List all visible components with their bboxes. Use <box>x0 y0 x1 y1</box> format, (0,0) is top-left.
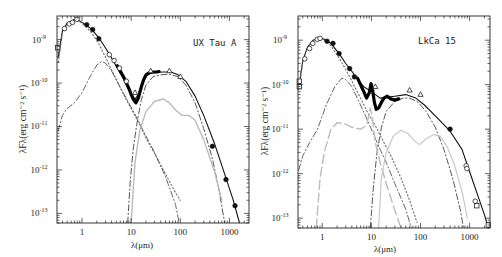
data-point-triangle-open <box>373 84 378 89</box>
panel-title: UX Tau A <box>193 38 237 48</box>
x-tick-label: 1 <box>320 232 325 242</box>
data-markers <box>297 36 490 227</box>
data-point-circle-filled <box>84 22 89 27</box>
y-tick-label: 10-9 <box>32 34 46 45</box>
x-axis-label: λ(μm) <box>131 240 153 250</box>
x-tick-label: 100 <box>174 227 188 237</box>
y-tick-label: 10-13 <box>272 212 289 223</box>
data-point-circle-filled <box>325 39 330 44</box>
data-point-circle-open <box>310 41 315 46</box>
panel-lkca-15: 110100100010-910-1010-1110-1210-13 LkCa … <box>260 16 490 254</box>
data-point-circle-filled <box>337 51 342 56</box>
data-point-circle-open <box>107 52 112 57</box>
y-axis-label: λFλ(erg cm⁻² s⁻¹) <box>260 87 271 156</box>
y-tick-label: 10-13 <box>31 207 48 218</box>
curve-outer-disk <box>128 74 225 223</box>
data-point-triangle-open <box>148 68 153 73</box>
x-tick-label: 100 <box>414 232 428 242</box>
data-point-circle-open <box>117 66 122 71</box>
data-point-circle-open <box>112 58 117 63</box>
x-tick-label: 10 <box>127 227 137 237</box>
y-tick-label: 10-12 <box>31 164 48 175</box>
data-point-circle-filled <box>90 27 95 32</box>
x-axis-label: λ(μm) <box>374 244 396 254</box>
data-point-circle-filled <box>233 203 238 208</box>
data-point-circle-open <box>302 57 307 62</box>
data-point-triangle-open <box>418 92 423 97</box>
model-curves <box>58 20 239 224</box>
data-point-circle-filled <box>331 41 336 46</box>
panel-ux-tau-a: 110100100010-910-1010-1110-1210-13 UX Ta… <box>18 16 249 250</box>
y-tick-label: 10-10 <box>272 79 289 90</box>
y-tick-label: 10-12 <box>272 168 289 179</box>
data-point-circle-filled <box>347 66 352 71</box>
panel-title: LkCa 15 <box>418 36 456 46</box>
axes-frame: 110100100010-910-1010-1110-1210-13 <box>31 16 250 237</box>
data-point-circle-filled <box>448 127 453 132</box>
data-point-triangle-open <box>167 68 172 73</box>
data-point-circle-open <box>465 166 470 171</box>
data-point-circle-open <box>318 36 323 41</box>
y-tick-label: 10-11 <box>272 123 289 134</box>
sed-figure: 110100100010-910-1010-1110-1210-13 UX Ta… <box>0 0 502 257</box>
data-point-circle-filled <box>97 36 102 41</box>
data-point-circle-filled <box>224 177 229 182</box>
curve-optically-thin-region <box>131 99 222 223</box>
x-tick-label: 1000 <box>220 227 239 237</box>
data-point-circle-open <box>70 20 75 25</box>
data-point-circle-open <box>473 199 478 204</box>
curve-total-model <box>299 38 488 229</box>
y-axis-label: λFλ(erg cm⁻² s⁻¹) <box>18 85 29 154</box>
data-point-circle-open <box>307 46 312 51</box>
data-point-circle-filled <box>352 75 357 80</box>
curve-stellar-photosphere <box>58 20 180 200</box>
x-tick-label: 1 <box>80 227 85 237</box>
data-point-circle-open <box>124 79 129 84</box>
curve-total-model <box>58 20 239 224</box>
x-tick-label: 10 <box>367 232 377 242</box>
data-point-circle-open <box>62 26 67 31</box>
curve-inner-wall <box>58 62 179 223</box>
curve-optically-thin-outer-region <box>379 130 468 228</box>
y-tick-label: 10-11 <box>31 120 48 131</box>
data-point-triangle-open <box>407 87 412 92</box>
y-tick-label: 10-10 <box>31 77 48 88</box>
data-point-circle-filled <box>210 144 215 149</box>
data-point-triangle-open <box>132 90 137 95</box>
x-tick-label: 1000 <box>461 232 480 242</box>
y-tick-label: 10-9 <box>273 34 287 45</box>
model-curves <box>299 38 489 229</box>
data-point-square-open <box>475 204 479 208</box>
